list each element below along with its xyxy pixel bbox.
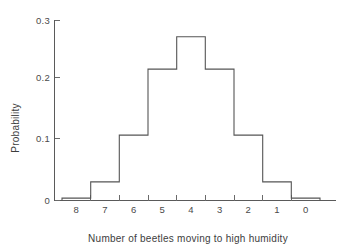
x-tick-label-1: 1: [274, 204, 280, 215]
y-tick-label-3: 0.3: [36, 15, 50, 26]
x-tick-label-6: 6: [131, 204, 137, 215]
chart-figure: 0 0.1 0.2 0.3 Probability 876543210 Numb…: [0, 0, 348, 252]
x-tick-label-4: 4: [188, 204, 194, 215]
y-tick-label-1: 0.1: [36, 133, 50, 144]
x-axis-title: Number of beetles moving to high humidit…: [88, 233, 288, 244]
x-tick-label-7: 7: [102, 204, 108, 215]
y-tick-label-0: 0: [44, 195, 50, 206]
x-tick-label-2: 2: [246, 204, 252, 215]
y-tick-label-2: 0.2: [36, 72, 50, 83]
x-tick-label-5: 5: [160, 204, 166, 215]
histogram-chart: 0 0.1 0.2 0.3 Probability 876543210 Numb…: [0, 0, 348, 252]
x-tick-label-8: 8: [74, 204, 80, 215]
x-tick-label-3: 3: [217, 204, 223, 215]
x-tick-label-0: 0: [303, 204, 309, 215]
y-axis-title: Probability: [10, 103, 21, 152]
chart-background: [0, 0, 348, 252]
